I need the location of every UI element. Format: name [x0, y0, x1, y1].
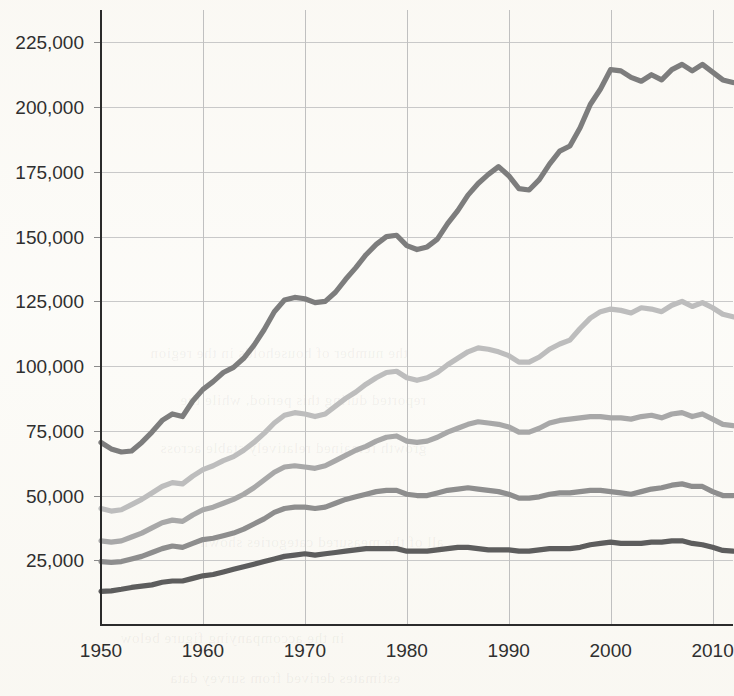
x-axis-label-1950: 1950	[80, 640, 122, 661]
y-axis-label-50000: 50,000	[26, 486, 84, 507]
x-axis-label-1980: 1980	[386, 640, 428, 661]
data-line-series-1	[101, 64, 733, 452]
x-axis-label-1960: 1960	[182, 640, 224, 661]
y-axis-labels: 25,00050,00075,000100,000125,000150,0001…	[15, 32, 84, 571]
y-axis-label-150000: 150,000	[15, 227, 84, 248]
y-axis-label-125000: 125,000	[15, 291, 84, 312]
y-axis-label-225000: 225,000	[15, 32, 84, 53]
y-gridlines	[101, 43, 733, 561]
data-line-series-2	[101, 301, 733, 511]
data-series-group	[101, 64, 733, 591]
x-gridlines	[204, 10, 714, 625]
line-chart-svg: 25,00050,00075,000100,000125,000150,0001…	[0, 0, 734, 696]
chart-container: the number of households in the region r…	[0, 0, 734, 696]
y-axis-label-200000: 200,000	[15, 97, 84, 118]
y-axis-label-175000: 175,000	[15, 162, 84, 183]
data-line-series-3	[101, 413, 733, 542]
y-axis-label-100000: 100,000	[15, 356, 84, 377]
y-axis-label-75000: 75,000	[26, 421, 84, 442]
y-axis-label-25000: 25,000	[26, 550, 84, 571]
x-axis-label-1990: 1990	[488, 640, 530, 661]
x-axis-label-2000: 2000	[590, 640, 632, 661]
data-line-series-5	[101, 541, 733, 592]
x-axis-label-1970: 1970	[284, 640, 326, 661]
x-axis-labels: 1950196019701980199020002010	[80, 640, 734, 661]
x-axis-label-2010: 2010	[691, 640, 733, 661]
